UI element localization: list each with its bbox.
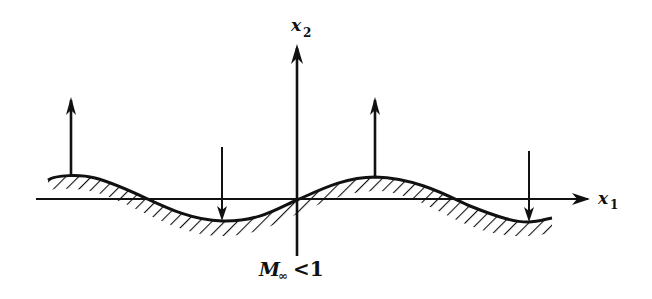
down-arrow-1 — [217, 147, 227, 221]
up-arrow-1 — [66, 97, 76, 176]
up-arrow-2 — [370, 97, 380, 177]
x2-label: x 2 — [290, 15, 311, 40]
x2-axis — [291, 44, 303, 256]
svg-text:x: x — [290, 15, 302, 35]
wavy-wall-diagram: x 1 x 2 M ∞ <1 — [0, 0, 652, 299]
svg-text:<1: <1 — [293, 257, 324, 281]
down-arrow-2 — [524, 151, 534, 222]
x1-label: x 1 — [597, 188, 618, 212]
mach-condition-label: M ∞ <1 — [258, 257, 324, 283]
svg-text:2: 2 — [303, 26, 311, 40]
svg-text:1: 1 — [610, 198, 618, 212]
wall-hatching — [40, 160, 560, 250]
svg-text:∞: ∞ — [278, 269, 288, 283]
svg-text:x: x — [597, 188, 609, 208]
